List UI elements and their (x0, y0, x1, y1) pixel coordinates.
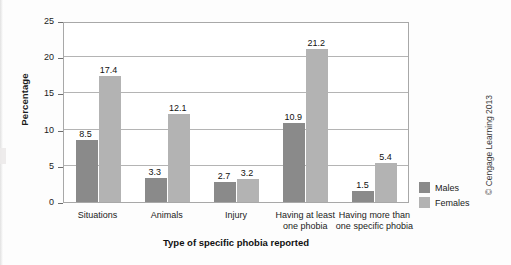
gridline (64, 56, 408, 57)
bar-females-3 (306, 49, 328, 202)
legend-label-males: Males (435, 183, 459, 193)
bar-males-0 (76, 140, 98, 202)
y-axis-tick-mark (58, 203, 63, 204)
scan-edge-artifact (0, 0, 4, 265)
bar-males-1 (145, 178, 167, 202)
bar-value-label: 12.1 (161, 103, 195, 113)
bar-males-2 (214, 182, 236, 202)
y-axis-tick-label: 0 (30, 197, 54, 207)
y-axis-tick-label: 20 (30, 52, 54, 62)
legend: Males Females (419, 180, 470, 210)
x-axis-category-label: Having more thanone specific phobia (334, 210, 415, 232)
y-axis-tick-label: 15 (30, 88, 54, 98)
y-axis-title: Percentage (19, 55, 30, 145)
y-axis-tick-label: 25 (30, 16, 54, 26)
bar-value-label: 3.3 (138, 167, 172, 177)
x-axis-category-line: one specific phobia (334, 221, 415, 232)
x-axis-category-line: Having more than (334, 210, 415, 221)
legend-item-males: Males (419, 180, 470, 195)
bar-value-label: 17.4 (92, 65, 126, 75)
y-axis-tick-label: 5 (30, 161, 54, 171)
copyright-credit: © Cengage Learning 2013 (484, 65, 494, 225)
legend-item-females: Females (419, 195, 470, 210)
bar-females-1 (168, 114, 190, 202)
scan-edge-artifact-mark (0, 148, 6, 164)
bar-females-2 (237, 179, 259, 202)
bar-value-label: 10.9 (276, 112, 310, 122)
bar-value-label: 5.4 (368, 152, 402, 162)
bar-value-label: 21.2 (299, 38, 333, 48)
x-axis-title: Type of specific phobia reported (63, 237, 409, 248)
chart-figure: Percentage 0510152025 8.517.43.312.12.73… (0, 0, 511, 265)
legend-swatch-males-icon (419, 182, 430, 193)
y-axis-tick-label: 10 (30, 125, 54, 135)
bar-value-label: 1.5 (345, 180, 379, 190)
bar-males-3 (283, 123, 305, 202)
bar-value-label: 3.2 (230, 168, 264, 178)
bar-males-4 (352, 191, 374, 202)
legend-label-females: Females (435, 198, 470, 208)
legend-swatch-females-icon (419, 197, 430, 208)
bar-value-label: 8.5 (69, 129, 103, 139)
